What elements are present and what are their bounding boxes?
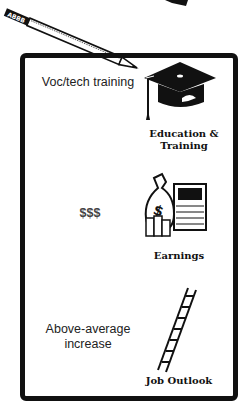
caption-line: Education & — [141, 128, 227, 140]
value-line: Above-average — [38, 322, 138, 337]
earnings-value: $$$ — [50, 206, 130, 221]
svg-text:ABBB: ABBB — [7, 10, 27, 24]
education-training-caption: Education & Training — [141, 128, 227, 152]
job-outlook-value: Above-average increase — [38, 322, 138, 352]
earnings-caption: Earnings — [148, 250, 210, 262]
ladder-icon — [152, 288, 202, 373]
graduation-cap-icon — [142, 60, 222, 130]
education-value: Voc/tech training — [38, 75, 138, 90]
job-outlook-caption: Job Outlook — [143, 375, 215, 387]
caption-line: Training — [141, 140, 227, 152]
value-line: increase — [38, 337, 138, 352]
money-bag-icon: $ — [144, 174, 214, 244]
